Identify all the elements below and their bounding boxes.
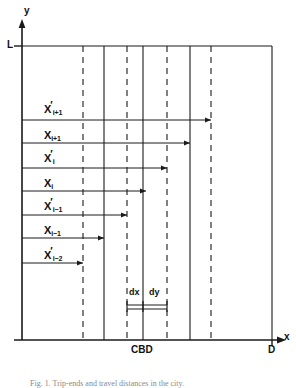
right-end-label: D — [268, 345, 275, 355]
top-left-corner-label: L — [7, 40, 13, 50]
interval-marker-bar — [127, 301, 167, 312]
trip-arrow-x-prime-i — [22, 166, 167, 171]
dx-label: dx — [129, 288, 140, 297]
trip-arrow-x-prime-i-minus-1 — [22, 213, 127, 218]
trip-end-label-5: Xi−1 — [44, 225, 61, 236]
y-axis-label: y — [24, 6, 30, 16]
y-axis-arrowhead-icon — [19, 19, 26, 28]
arrow-head-icon — [205, 118, 211, 123]
arrow-head-icon — [161, 166, 167, 171]
trip-arrow-x-i-minus-1 — [22, 236, 104, 241]
x-axis-label: x — [284, 332, 290, 342]
trip-end-label-0: X′i+1 — [44, 104, 62, 115]
arrow-head-icon — [98, 236, 104, 241]
arrow-head-icon — [121, 213, 127, 218]
plot-frame — [22, 46, 272, 340]
cbd-label: CBD — [131, 345, 153, 355]
arrow-head-icon — [184, 141, 190, 146]
y-axis — [14, 19, 25, 340]
zone-boundaries — [83, 46, 211, 340]
trip-end-label-6: X′i−2 — [44, 250, 62, 261]
dy-label: dy — [149, 288, 160, 297]
trip-arrow-x-i-plus-1 — [22, 141, 190, 146]
figure-caption: Fig. 1. Trip-ends and travel distances i… — [30, 379, 184, 388]
trip-end-label-1: Xi+1 — [44, 130, 61, 141]
trip-end-label-2: X′i — [44, 153, 55, 164]
trip-distance-diagram — [0, 0, 296, 388]
trip-end-label-4: X′i−1 — [44, 201, 62, 212]
trip-arrow-x-prime-i-plus-1 — [22, 118, 211, 123]
arrow-head-icon — [77, 261, 83, 266]
trip-end-label-3: Xi — [44, 178, 53, 189]
